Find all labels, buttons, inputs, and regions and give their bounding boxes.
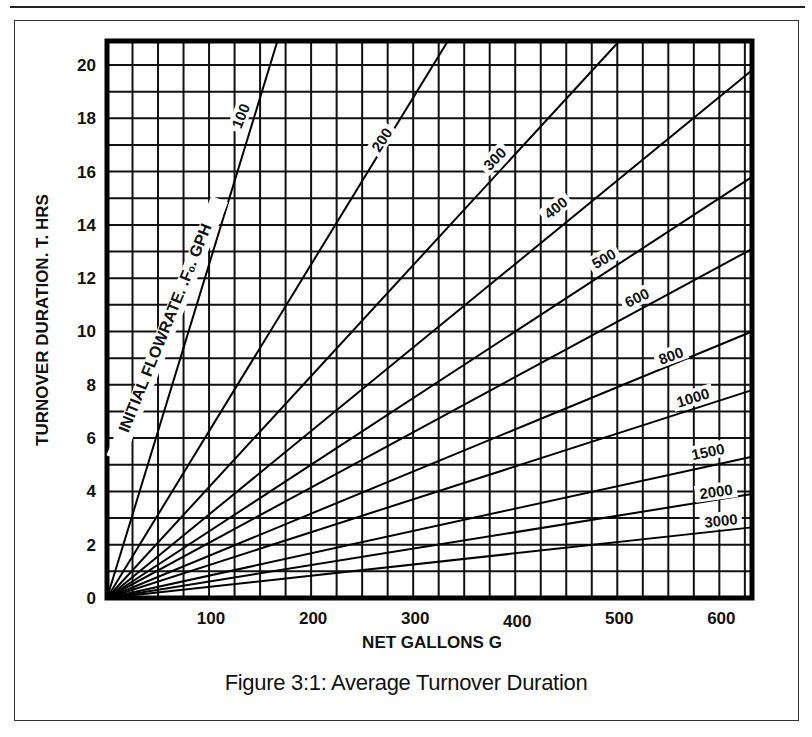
line-label-3000: 3000 xyxy=(699,510,743,531)
y-axis-ticks: 02468101214161820 xyxy=(77,56,96,608)
line-label-text: 3000 xyxy=(703,510,738,530)
line-label-600: 600 xyxy=(618,283,655,313)
x-axis-title: NET GALLONS G xyxy=(362,633,502,652)
y-tick-label: 10 xyxy=(77,322,96,341)
y-tick-label: 8 xyxy=(87,376,96,395)
chart-grid xyxy=(107,41,752,598)
y-tick-label: 18 xyxy=(77,109,96,128)
x-tick-label: 400 xyxy=(503,612,531,631)
x-tick-label: 300 xyxy=(401,609,429,628)
x-tick-label: 600 xyxy=(707,609,735,628)
x-tick-label: 100 xyxy=(197,609,225,628)
y-tick-label: 16 xyxy=(77,163,96,182)
flowrate-line-1500 xyxy=(107,457,752,598)
flowrate-line-3000 xyxy=(107,527,752,598)
line-label-text: 1500 xyxy=(690,440,726,464)
y-tick-label: 4 xyxy=(87,482,97,501)
y-tick-label: 0 xyxy=(87,589,96,608)
y-tick-label: 2 xyxy=(87,536,96,555)
line-label-text: 2000 xyxy=(698,481,733,502)
figure-caption: Figure 3:1: Average Turnover Duration xyxy=(0,670,812,696)
x-tick-label: 200 xyxy=(299,609,327,628)
flowrate-lines xyxy=(107,41,752,598)
line-label-2000: 2000 xyxy=(694,480,738,503)
series-group-label: INITIAL FLOWRATE. .F₀. GPH xyxy=(115,221,214,435)
turnover-duration-chart: 1002003004005006008001000150020003000 02… xyxy=(0,0,812,737)
line-label-1500: 1500 xyxy=(686,439,731,464)
line-label-200: 200 xyxy=(365,121,397,158)
flowrate-line-labels: 1002003004005006008001000150020003000 xyxy=(226,97,742,531)
y-tick-label: 14 xyxy=(77,216,96,235)
y-tick-label: 12 xyxy=(77,269,96,288)
x-tick-label: 500 xyxy=(605,609,633,628)
y-tick-label: 6 xyxy=(87,429,96,448)
y-tick-label: 20 xyxy=(77,56,96,75)
y-axis-title: TURNOVER DURATION. T. HRS xyxy=(33,194,52,446)
plot-border xyxy=(107,41,752,598)
x-axis-ticks: 100200300400500600 xyxy=(197,609,736,631)
